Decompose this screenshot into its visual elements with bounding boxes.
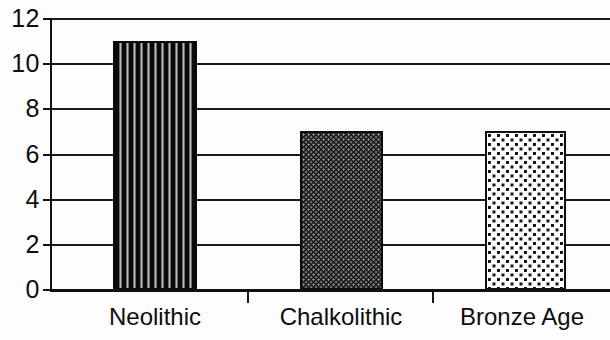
y-tick-12 xyxy=(43,18,52,20)
category-separator-2 xyxy=(432,292,434,303)
bar-chalkolithic xyxy=(300,131,383,290)
y-tick-6 xyxy=(43,154,52,156)
y-tick-label-4: 4 xyxy=(0,187,40,212)
y-tick-2 xyxy=(43,244,52,246)
bar-bronze-age xyxy=(485,131,566,290)
x-tick-label-chalkolithic: Chalkolithic xyxy=(249,305,433,329)
y-tick-label-8: 8 xyxy=(0,96,40,121)
x-axis-line xyxy=(50,289,610,292)
y-tick-4 xyxy=(43,199,52,201)
y-tick-label-12: 12 xyxy=(0,6,40,31)
y-tick-label-2: 2 xyxy=(0,232,40,257)
y-tick-8 xyxy=(43,108,52,110)
x-tick-label-neolithic: Neolithic xyxy=(62,305,248,329)
y-tick-10 xyxy=(43,63,52,65)
bar-neolithic xyxy=(113,41,197,290)
category-separator-1 xyxy=(247,292,249,303)
plot-area: 12 10 8 6 4 2 0 Neolithic Chalkolithic B… xyxy=(0,0,610,340)
y-tick-0 xyxy=(43,289,52,291)
x-tick-label-bronze-age: Bronze Age xyxy=(434,305,610,329)
y-tick-label-0: 0 xyxy=(0,277,40,302)
y-tick-label-6: 6 xyxy=(0,142,40,167)
y-tick-label-10: 10 xyxy=(0,51,40,76)
chart-figure: 12 10 8 6 4 2 0 Neolithic Chalkolithic B… xyxy=(0,0,610,340)
gridline-12 xyxy=(50,18,610,20)
